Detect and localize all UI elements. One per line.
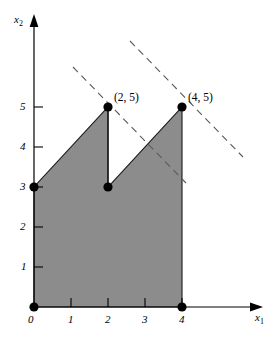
vertex-dot-0-3: [29, 182, 38, 191]
x-axis-label: x1: [255, 312, 264, 326]
y-tick-label-5: 5: [20, 101, 26, 112]
vertex-dot-4-0: [177, 302, 186, 311]
plot-canvas: [0, 0, 279, 346]
y-tick-label-1: 1: [21, 261, 27, 272]
objective-line-through-point-4-5: [130, 41, 243, 157]
y-axis-arrowhead: [30, 14, 39, 27]
y-tick-label-3: 3: [20, 181, 26, 192]
plot-figure: 5 4 3 2 1 0 1 2 3 4 x2 x1 (2, 5) (4, 5): [0, 0, 279, 346]
y-tick-label-4: 4: [20, 141, 26, 152]
x-tick-label-2: 2: [105, 314, 111, 325]
point-label-4-5: (4, 5): [188, 92, 213, 104]
vertex-dot-origin: [29, 302, 38, 311]
x-tick-label-1: 1: [68, 314, 74, 325]
vertex-dot-2-3: [103, 182, 112, 191]
y-axis-label-subscript: 2: [19, 19, 23, 28]
x-tick-label-3: 3: [142, 314, 148, 325]
x-axis-label-subscript: 1: [260, 317, 264, 326]
origin-tick-label-0: 0: [28, 314, 34, 325]
y-axis-label: x2: [14, 14, 23, 28]
y-tick-label-2: 2: [20, 221, 26, 232]
x-tick-label-4: 4: [179, 314, 185, 325]
vertex-dot-2-5: [103, 102, 112, 111]
point-label-2-5: (2, 5): [114, 92, 139, 104]
vertex-dot-4-5: [177, 102, 186, 111]
